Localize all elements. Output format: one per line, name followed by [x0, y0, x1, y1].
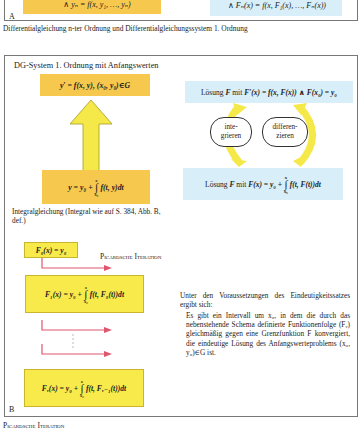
- ode-system-box: ∧ Fₙ(x) = f(x, F₁(x), …, Fₙ(x)): [210, 0, 342, 16]
- iteration-n-prefix: Fᵥ(x) = y₀ +: [42, 384, 78, 393]
- ode-nth-order-box: ∧ yₙ = f(x, y₁, …, yₙ): [23, 0, 161, 14]
- integral-lower: x₀: [95, 192, 99, 197]
- solution-mit-2: mit: [236, 180, 246, 189]
- panel-a-caption: Differentialgleichung n-ter Ordnung und …: [3, 24, 248, 33]
- differentiate-oval: differen-zieren: [262, 117, 308, 147]
- ivp-box: y′ = f(x, y), (x₀, y₀)∈G: [40, 74, 150, 96]
- solution-integral-suffix: f(t, F(t))dt: [290, 180, 321, 189]
- integral-equation-box: y = y₀ + x ∫ x₀ f(t, y)dt: [42, 170, 150, 204]
- ode-system-formula: ∧ Fₙ(x) = f(x, F₁(x), …, Fₙ(x)): [228, 1, 326, 10]
- integral-lower: x₀: [284, 189, 288, 194]
- panel-b-title: DG-System 1. Ordnung mit Anfangswerten: [14, 61, 159, 70]
- integral-suffix: f(t, y)dt: [100, 183, 123, 192]
- integral-prefix: y = y₀ +: [68, 183, 92, 192]
- panel-b-caption: Picardsche Iteration: [3, 421, 64, 430]
- theorem-text: Es gibt ein Intervall um x₀, in dem die …: [186, 311, 350, 357]
- integrate-line-2: grieren: [221, 132, 241, 140]
- iteration-box-1: F₁(x) = y₀ + x ∫ x₀ f(t, F₀(t))dt: [25, 275, 144, 313]
- iteration-1-suffix: f(t, F₀(t))dt: [90, 290, 124, 299]
- solution-label: Lösung: [201, 88, 224, 97]
- differentiate-line-2: zieren: [276, 132, 294, 140]
- panel-b-label: B: [9, 405, 14, 414]
- solution-derivative-box: Lösung F mit F′(x) = f(x, F(x)) ∧ F(x₀) …: [185, 81, 353, 103]
- theorem-intro: Unter den Voraussetzungen des Eindeutigk…: [180, 291, 350, 309]
- integral-sign: x ∫ x₀: [95, 178, 99, 197]
- iteration-n-suffix: f(t, Fᵥ₋₁(t))dt: [86, 384, 126, 393]
- solution-derivative-formula: F′(x) = f(x, F(x)) ∧ F(x₀) = y₀: [244, 88, 337, 97]
- integral-lower: x₀: [84, 299, 88, 304]
- integral-sign: x ∫ x₀: [284, 175, 288, 194]
- panel-a-label: A: [9, 12, 15, 21]
- iteration-0-formula: F₀(x) = y₀: [36, 246, 67, 255]
- solution-integral-box: Lösung F mit F(x) = y₀ + x ∫ x₀ f(t, F(t…: [183, 168, 343, 200]
- iteration-box-0: F₀(x) = y₀: [24, 242, 78, 258]
- solution-integral-prefix: F(x) = y₀ +: [248, 180, 282, 189]
- integrate-oval: inte-grieren: [210, 117, 252, 147]
- integral-lower: x₀: [80, 393, 84, 398]
- integrate-line-1: inte-: [224, 123, 237, 131]
- ivp-formula: y′ = f(x, y), (x₀, y₀)∈G: [60, 81, 130, 90]
- iteration-1-prefix: F₁(x) = y₀ +: [45, 290, 82, 299]
- integral-sign: x ∫ x₀: [84, 285, 88, 304]
- differentiate-line-1: differen-: [272, 123, 297, 131]
- solution-label-2: Lösung: [205, 180, 228, 189]
- integral-note: Integralgleichung (Integral wie auf S. 3…: [12, 207, 172, 226]
- integral-sign: x ∫ x₀: [80, 379, 84, 398]
- solution-symbol: F: [225, 88, 230, 97]
- solution-mit: mit: [232, 88, 242, 97]
- ode-nth-order-formula: ∧ yₙ = f(x, y₁, …, yₙ): [63, 0, 130, 9]
- iteration-box-n: Fᵥ(x) = y₀ + x ∫ x₀ f(t, Fᵥ₋₁(t))dt: [24, 369, 144, 407]
- solution-symbol-2: F: [229, 180, 234, 189]
